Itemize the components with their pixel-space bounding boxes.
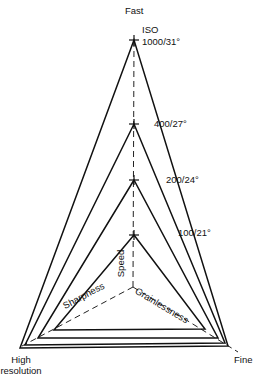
speed-axis <box>133 40 134 287</box>
label-fine: Fine <box>234 354 252 365</box>
label-iso-400: 400/27° <box>154 118 187 129</box>
film-characteristics-diagram <box>0 0 268 382</box>
triangle-iso-1000 <box>20 40 228 348</box>
triangle-iso-200 <box>38 180 218 338</box>
label-iso-100: 100/21° <box>178 227 211 238</box>
label-high-resolution: High resolution <box>0 354 42 376</box>
label-high: High <box>0 354 42 365</box>
label-fast: Fast <box>125 5 143 16</box>
star-marker-1000 <box>129 35 139 46</box>
label-iso-1000: 1000/31° <box>142 36 180 47</box>
label-resolution: resolution <box>0 365 42 376</box>
inner-axes <box>22 40 238 352</box>
star-marker-200 <box>129 175 139 185</box>
star-marker-400 <box>129 119 139 129</box>
label-iso: ISO <box>142 24 158 35</box>
label-iso-200: 200/24° <box>166 174 199 185</box>
label-speed: Speed <box>115 250 126 277</box>
